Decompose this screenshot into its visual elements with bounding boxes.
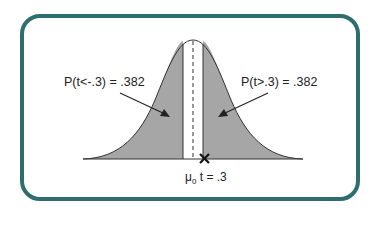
left-tail-probability-label: P(t<-.3) = .382 xyxy=(64,75,145,89)
left-tail-shaded-region xyxy=(83,41,183,159)
mean-and-t-value-label: μ0 t = .3 xyxy=(185,170,227,186)
right-tail-probability-label: P(t>.3) = .382 xyxy=(241,75,317,89)
mean-symbol: μ xyxy=(185,170,192,184)
t-value-label: t = .3 xyxy=(200,170,227,184)
mean-subscript: 0 xyxy=(192,177,196,186)
